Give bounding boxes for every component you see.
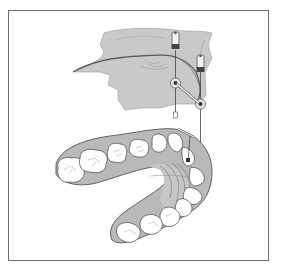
screw-left [174, 112, 178, 118]
implant-right [196, 55, 206, 152]
dental-arch [56, 129, 212, 243]
dental-illustration [0, 0, 283, 268]
